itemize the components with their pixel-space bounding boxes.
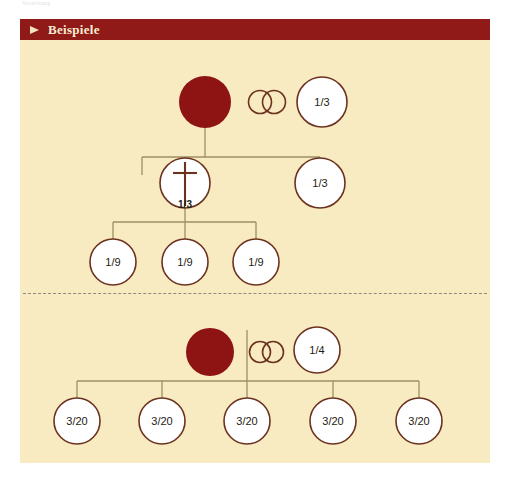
mating-union-symbol-p1 [249,91,286,114]
individual-p2-g2-c1: 3/20 [54,398,100,444]
individual-p1-g3-c1: 1/9 [90,239,136,285]
probability-label: 1/9 [177,256,192,268]
bleed-through-text: Vererbung [22,0,51,6]
individual-p1-g3-c3: 1/9 [233,239,279,285]
probability-label: 1/9 [105,256,120,268]
probability-label: 3/20 [408,415,429,427]
pedigree-2: 1/4 3/20 3/20 3/20 3/20 [54,327,442,444]
triangle-right-icon [30,26,39,34]
mating-union-symbol-p2 [250,342,284,363]
individual-p2-g2-c3: 3/20 [224,398,270,444]
pedigree-1: 1/3 1/3 1/3 1/ [90,76,347,285]
individual-p2-g1-c3: 1/4 [294,327,340,373]
probability-label: 3/20 [151,415,172,427]
probability-label: 3/20 [66,415,87,427]
pedigree-diagrams-svg: 1/3 1/3 1/3 1/ [20,40,490,463]
section-title: Beispiele [48,22,100,38]
individual-p1-g3-c2: 1/9 [162,239,208,285]
individual-p2-g2-c4: 3/20 [310,398,356,444]
pedigree-stage: 1/3 1/3 1/3 1/ [20,40,490,463]
individual-p1-g1-c3: 1/3 [297,77,347,127]
probability-label: 1/3 [178,199,192,210]
individual-p1-g2-c1-deceased: 1/3 [160,158,210,210]
probability-label: 1/9 [248,256,263,268]
affected-individual-p1-g1 [179,76,231,128]
section-header: Beispiele [20,19,490,40]
probability-label: 1/3 [314,96,329,108]
probability-label: 1/4 [309,344,324,356]
individual-p1-g2-c2: 1/3 [295,158,345,208]
section-divider [23,293,487,294]
individual-p2-g2-c5: 3/20 [396,398,442,444]
affected-individual-p2-g1 [186,328,234,376]
probability-label: 3/20 [322,415,343,427]
figure-panel: Beispiele [20,19,490,463]
probability-label: 1/3 [312,177,327,189]
pedigree-2-connectors [77,330,419,399]
probability-label: 3/20 [236,415,257,427]
individual-p2-g2-c2: 3/20 [139,398,185,444]
